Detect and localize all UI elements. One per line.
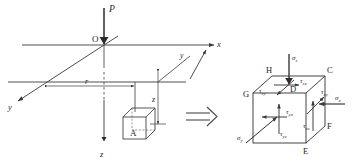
axis-label-y: y (7, 102, 12, 112)
dimension-label-z: z (151, 95, 156, 104)
stress-label-sigma-x: σx (335, 94, 341, 103)
vertex-label-C: C (327, 65, 333, 75)
stress-label-tau-yx: τyx (286, 108, 294, 117)
axis-label-z: z (99, 149, 104, 159)
dimension-label-r: r (85, 77, 89, 86)
stress-arrow-sigma-y (246, 117, 277, 143)
stress-label-sigma-y: σy (237, 134, 243, 143)
stress-label-sigma-z: σz (292, 54, 297, 63)
vertex-label-E: E (303, 146, 308, 156)
diagram-svg: P O x y y z r z A (0, 0, 357, 167)
origin-label-O: O (92, 34, 99, 44)
vertex-label-D: D (290, 84, 296, 94)
axis-label-x: x (216, 39, 221, 49)
stress-arrow-tau-xy (307, 97, 324, 114)
y-axis-right-diagonal (158, 56, 190, 82)
load-label-P: P (108, 4, 115, 14)
figure-canvas: P O x y y z r z A (0, 0, 357, 167)
axis-label-y-secondary: y (179, 51, 184, 60)
stress-cube-outline (253, 76, 325, 143)
stress-label-tau-yz: τyz (280, 130, 287, 139)
element-cube-A (123, 108, 155, 139)
stress-label-tau-zy: τzy (259, 87, 266, 96)
half-space-plane (8, 36, 214, 101)
vertex-label-H: H (266, 65, 272, 75)
implies-arrow (186, 107, 217, 126)
element-label-A: A (130, 128, 137, 138)
stress-label-tau-zx: τzx (300, 77, 307, 86)
vertex-label-G: G (243, 89, 249, 99)
vertex-label-F: F (327, 121, 332, 131)
